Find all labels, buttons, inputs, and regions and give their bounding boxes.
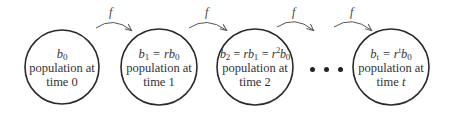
node-time-var: t [402, 75, 405, 89]
node-time-1: b1 = rb0 population at time 1 [114, 47, 204, 89]
arrow-2-to-ellipsis [277, 22, 313, 30]
node-time-t: bt = rtb0 population at time t [346, 47, 436, 89]
node-label: population at [17, 61, 107, 75]
arrow-ellipsis-to-t [334, 22, 371, 30]
ellipsis-dot [338, 67, 343, 72]
node-label: population at [114, 61, 204, 75]
node-time-prefix: time [377, 75, 402, 89]
node-time-0: b0 population at time 0 [17, 47, 107, 89]
node-time: time 0 [17, 75, 107, 89]
arrow-label-f: f [292, 5, 295, 20]
ellipsis-dot [324, 67, 329, 72]
arrow-label-f: f [205, 5, 208, 20]
node-time: time t [346, 75, 436, 89]
node-equation: b2 = rb1 = r2b0 [210, 47, 300, 61]
arrow-label-f: f [350, 5, 353, 20]
arrow-label-f: f [109, 5, 112, 20]
node-equation: b0 [17, 47, 107, 61]
ellipsis-dot [310, 67, 315, 72]
node-time: time 2 [210, 75, 300, 89]
node-time-2: b2 = rb1 = r2b0 population at time 2 [210, 47, 300, 89]
node-time: time 1 [114, 75, 204, 89]
node-equation: bt = rtb0 [346, 47, 436, 61]
node-label: population at [346, 61, 436, 75]
arrow-0-to-1 [96, 22, 131, 30]
node-equation: b1 = rb0 [114, 47, 204, 61]
node-label: population at [210, 61, 300, 75]
arrow-1-to-2 [189, 22, 226, 30]
